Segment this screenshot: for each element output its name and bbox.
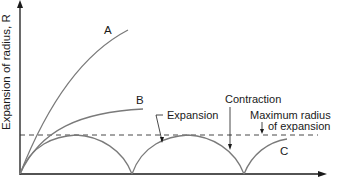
expansion-diagram: Expansion of radius, R A B C Expansion C… [0, 0, 338, 182]
contraction-label: Contraction [225, 93, 281, 105]
curve-b [20, 109, 143, 174]
y-axis-label: Expansion of radius, R [0, 14, 12, 130]
max-radius-arrow-icon [260, 129, 264, 134]
curve-a-label: A [104, 24, 112, 36]
y-axis-arrow-icon [17, 0, 23, 8]
expansion-label: Expansion [167, 109, 218, 121]
x-axis-arrow-icon [318, 171, 327, 177]
curve-a [20, 30, 128, 174]
curve-c-arch-1 [20, 135, 132, 174]
curve-b-label: B [136, 94, 144, 106]
curve-c-label: C [280, 145, 288, 157]
curve-c-arch-2 [132, 135, 244, 174]
contraction-arrow-icon [228, 144, 232, 150]
max-radius-label-line2: of expansion [268, 120, 330, 132]
